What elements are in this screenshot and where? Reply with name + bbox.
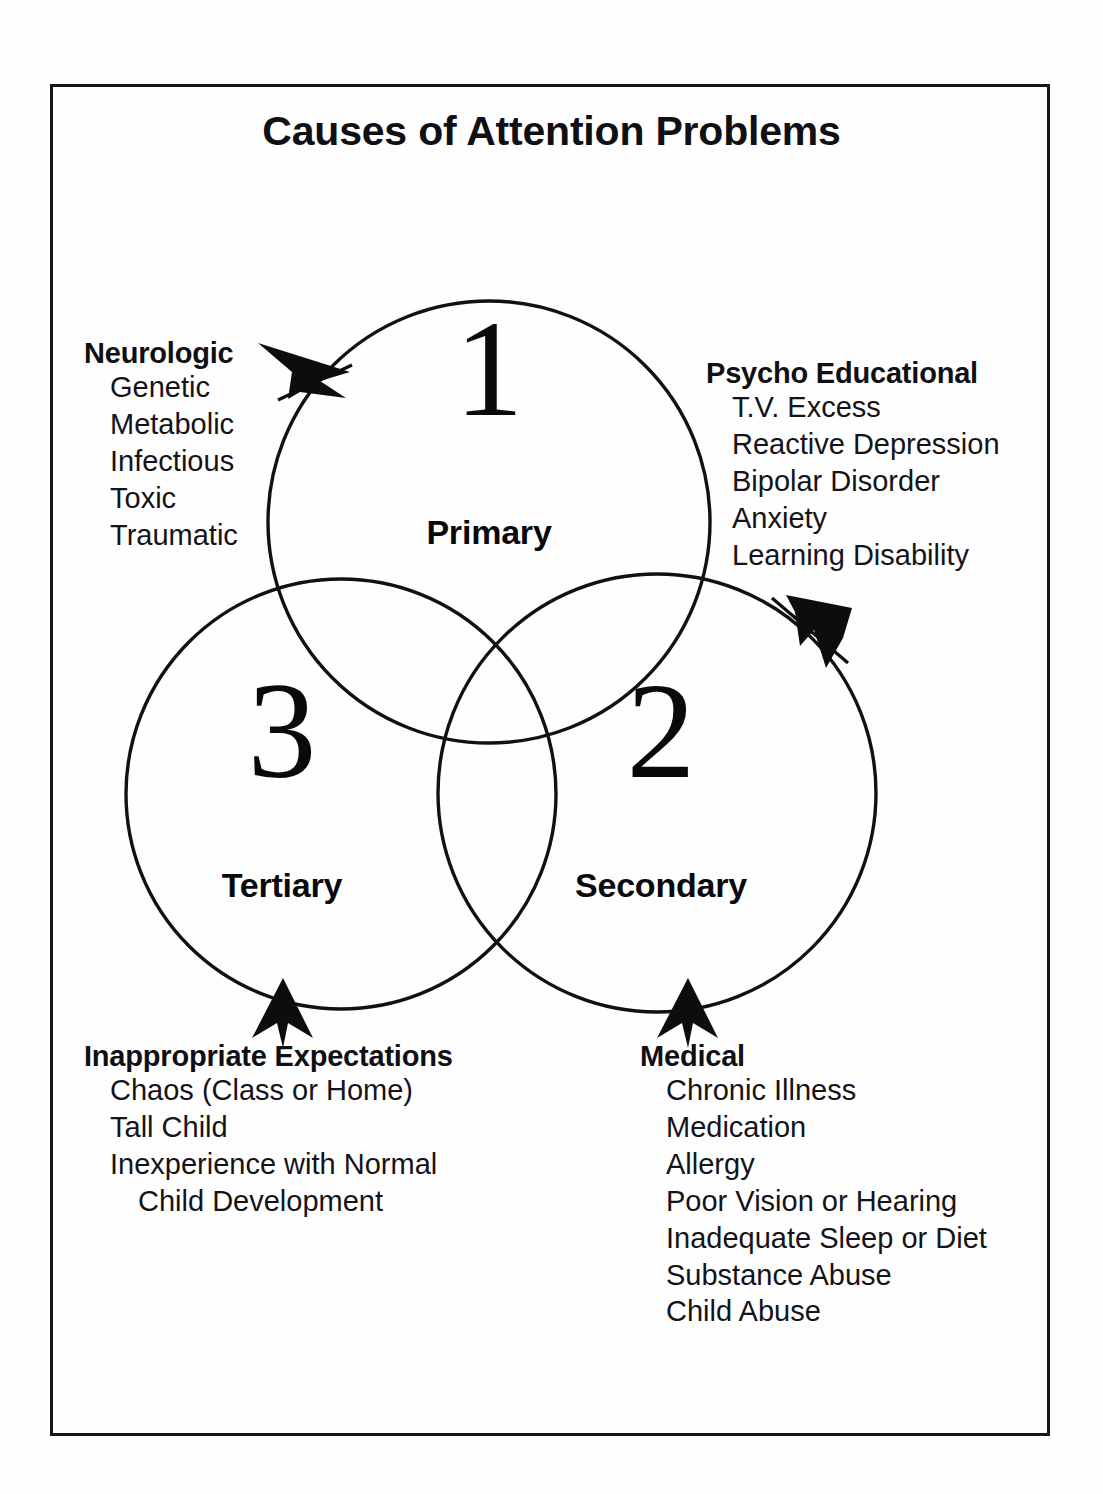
callout-inappropriate-expectations: Inappropriate Expectations Chaos (Class … — [84, 1040, 453, 1220]
callout-psycho-educational-item: Anxiety — [706, 500, 1000, 537]
callout-neurologic-heading: Neurologic — [84, 337, 238, 369]
callout-medical-item: Substance Abuse — [640, 1257, 987, 1294]
venn-label-secondary: Secondary — [531, 866, 791, 905]
callout-medical-item: Medication — [640, 1109, 987, 1146]
callout-neurologic: Neurologic Genetic Metabolic Infectious … — [84, 337, 238, 554]
callout-psycho-educational-item: Reactive Depression — [706, 426, 1000, 463]
callout-neurologic-item: Traumatic — [84, 517, 238, 554]
callout-neurologic-item: Metabolic — [84, 406, 238, 443]
figure-page: Causes of Attention Problems 1 Primary 2… — [0, 0, 1103, 1494]
venn-numeral-secondary: 2 — [591, 662, 731, 800]
callout-neurologic-item: Genetic — [84, 369, 238, 406]
callout-neurologic-item: Infectious — [84, 443, 238, 480]
callout-medical-item: Child Abuse — [640, 1293, 987, 1330]
callout-psycho-educational-item: Learning Disability — [706, 537, 1000, 574]
venn-label-tertiary: Tertiary — [152, 866, 412, 905]
venn-label-primary: Primary — [359, 513, 619, 552]
venn-numeral-tertiary: 3 — [212, 662, 352, 800]
callout-psycho-educational-item: T.V. Excess — [706, 389, 1000, 426]
callout-psycho-educational-heading: Psycho Educational — [706, 357, 1000, 389]
callout-medical-heading: Medical — [640, 1040, 987, 1072]
callout-medical-item: Allergy — [640, 1146, 987, 1183]
page-title: Causes of Attention Problems — [0, 108, 1103, 155]
callout-inappropriate-expectations-heading: Inappropriate Expectations — [84, 1040, 453, 1072]
callout-psycho-educational: Psycho Educational T.V. Excess Reactive … — [706, 357, 1000, 574]
callout-inappropriate-expectations-item: Tall Child — [84, 1109, 453, 1146]
callout-psycho-educational-item: Bipolar Disorder — [706, 463, 1000, 500]
callout-inappropriate-expectations-item: Inexperience with Normal — [84, 1146, 453, 1183]
callout-medical: Medical Chronic Illness Medication Aller… — [640, 1040, 987, 1330]
callout-medical-item: Inadequate Sleep or Diet — [640, 1220, 987, 1257]
callout-medical-item: Poor Vision or Hearing — [640, 1183, 987, 1220]
callout-medical-item: Chronic Illness — [640, 1072, 987, 1109]
callout-inappropriate-expectations-item: Chaos (Class or Home) — [84, 1072, 453, 1109]
venn-numeral-primary: 1 — [419, 300, 559, 438]
callout-neurologic-item: Toxic — [84, 480, 238, 517]
callout-inappropriate-expectations-item-continuation: Child Development — [84, 1183, 453, 1220]
